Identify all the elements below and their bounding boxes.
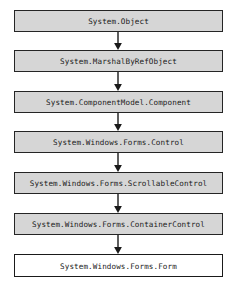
arrow-down-icon: [113, 113, 124, 131]
class-node-label: System.Windows.Forms.ScrollableControl: [30, 180, 208, 188]
class-node-label: System.Windows.Forms.ContainerControl: [32, 221, 205, 229]
class-node-label: System.MarshalByRefObject: [60, 58, 177, 66]
class-node-label: System.Windows.Forms.Form: [60, 262, 177, 270]
inheritance-arrow: [113, 153, 124, 172]
class-node-label: System.Windows.Forms.Control: [53, 139, 184, 147]
class-node-componentmodel-component: System.ComponentModel.Component: [14, 91, 223, 113]
class-node-forms-control: System.Windows.Forms.Control: [14, 131, 223, 153]
class-node-marshalbyrefobject: System.MarshalByRefObject: [14, 50, 223, 72]
class-node-system-object: System.Object: [14, 10, 223, 32]
inheritance-arrow: [113, 194, 124, 213]
class-node-forms-scrollablecontrol: System.Windows.Forms.ScrollableControl: [14, 172, 223, 194]
arrow-down-icon: [113, 194, 124, 213]
arrow-down-icon: [113, 72, 124, 91]
inheritance-arrow: [113, 113, 124, 131]
class-hierarchy-diagram: System.Object System.MarshalByRefObject …: [0, 0, 237, 287]
class-node-label: System.Object: [88, 18, 149, 26]
class-node-forms-form: System.Windows.Forms.Form: [14, 254, 223, 277]
inheritance-arrow: [113, 72, 124, 91]
inheritance-arrow: [113, 32, 124, 50]
arrow-down-icon: [113, 235, 124, 254]
arrow-down-icon: [113, 153, 124, 172]
class-node-forms-containercontrol: System.Windows.Forms.ContainerControl: [14, 213, 223, 235]
inheritance-arrow: [113, 235, 124, 254]
class-node-label: System.ComponentModel.Component: [46, 99, 191, 107]
arrow-down-icon: [113, 32, 124, 50]
